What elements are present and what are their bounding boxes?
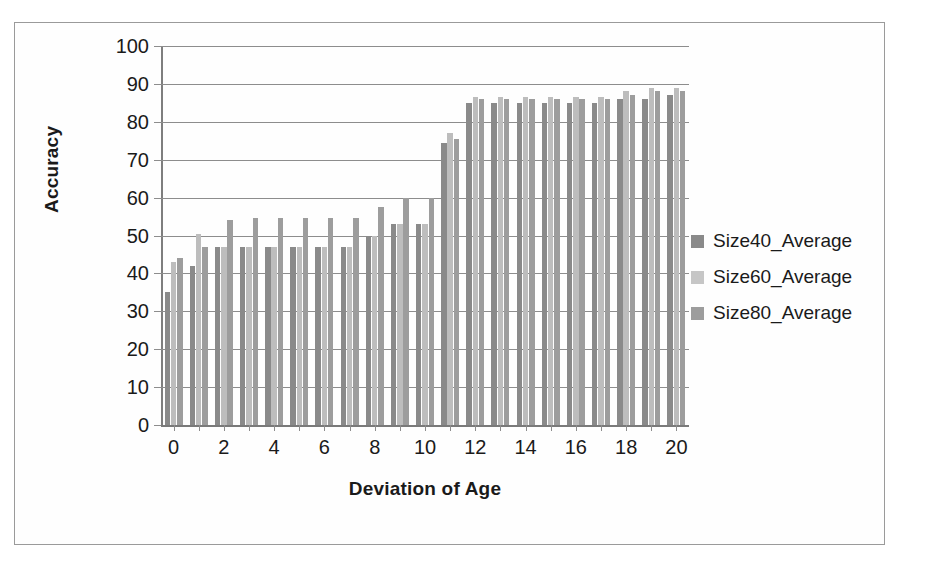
y-tick-label-10: 10: [127, 377, 149, 397]
bar-Size80_Average-7[interactable]: [353, 218, 358, 425]
bar-Size60_Average-18[interactable]: [623, 91, 628, 425]
bar-Size60_Average-5[interactable]: [297, 247, 302, 425]
x-tick-14: [526, 425, 527, 431]
bar-Size80_Average-20[interactable]: [680, 91, 685, 425]
bar-Size80_Average-15[interactable]: [554, 99, 559, 425]
legend-item-Size40_Average[interactable]: Size40_Average: [691, 223, 852, 259]
bar-Size40_Average-17[interactable]: [592, 103, 597, 425]
x-tick-label-20: 20: [665, 437, 687, 457]
legend-label: Size40_Average: [713, 230, 852, 252]
bar-Size80_Average-8[interactable]: [378, 207, 383, 425]
bar-group-20: [667, 46, 685, 425]
x-tick-label-14: 14: [514, 437, 536, 457]
bar-Size60_Average-19[interactable]: [649, 88, 654, 425]
bar-Size80_Average-13[interactable]: [504, 99, 509, 425]
bar-Size60_Average-10[interactable]: [422, 224, 427, 425]
x-tick-18: [626, 425, 627, 431]
bar-Size40_Average-14[interactable]: [517, 103, 522, 425]
x-tick-label-6: 6: [319, 437, 330, 457]
bar-Size40_Average-16[interactable]: [567, 103, 572, 425]
bar-group-2: [215, 46, 233, 425]
figure-frame: 0102030405060708090100 02468101214161820…: [14, 22, 885, 545]
bar-Size40_Average-4[interactable]: [265, 247, 270, 425]
bar-Size40_Average-18[interactable]: [617, 99, 622, 425]
x-tick-2: [224, 425, 225, 431]
bar-Size60_Average-4[interactable]: [271, 247, 276, 425]
bar-Size40_Average-12[interactable]: [466, 103, 471, 425]
bar-Size80_Average-11[interactable]: [454, 139, 459, 425]
bar-Size40_Average-15[interactable]: [542, 103, 547, 425]
bar-Size60_Average-9[interactable]: [397, 224, 402, 425]
bar-Size60_Average-20[interactable]: [674, 88, 679, 425]
bar-group-9: [391, 46, 409, 425]
x-tick-10: [425, 425, 426, 431]
bar-Size40_Average-13[interactable]: [491, 103, 496, 425]
bar-Size80_Average-14[interactable]: [529, 99, 534, 425]
y-tick-label-80: 80: [127, 112, 149, 132]
bar-Size60_Average-0[interactable]: [171, 262, 176, 425]
bar-group-1: [190, 46, 208, 425]
y-tick-100: [154, 46, 161, 47]
bar-Size40_Average-2[interactable]: [215, 247, 220, 425]
bar-Size80_Average-5[interactable]: [303, 218, 308, 425]
x-tick-label-2: 2: [218, 437, 229, 457]
bar-Size80_Average-1[interactable]: [202, 247, 207, 425]
bar-Size40_Average-20[interactable]: [667, 95, 672, 425]
bar-Size60_Average-7[interactable]: [347, 247, 352, 425]
x-tick-7: [350, 425, 351, 431]
legend-item-Size80_Average[interactable]: Size80_Average: [691, 295, 852, 331]
bar-Size40_Average-6[interactable]: [315, 247, 320, 425]
bar-Size60_Average-12[interactable]: [473, 97, 478, 425]
x-tick-11: [450, 425, 451, 431]
bar-group-7: [341, 46, 359, 425]
bar-Size60_Average-1[interactable]: [196, 234, 201, 425]
legend-item-Size60_Average[interactable]: Size60_Average: [691, 259, 852, 295]
x-tick-3: [249, 425, 250, 431]
bar-Size80_Average-6[interactable]: [328, 218, 333, 425]
x-tick-label-16: 16: [565, 437, 587, 457]
x-tick-1: [199, 425, 200, 431]
y-tick-label-90: 90: [127, 74, 149, 94]
bar-Size60_Average-3[interactable]: [246, 247, 251, 425]
bar-Size40_Average-10[interactable]: [416, 224, 421, 425]
bar-Size80_Average-2[interactable]: [227, 220, 232, 425]
bar-Size80_Average-10[interactable]: [429, 198, 434, 425]
bar-Size40_Average-11[interactable]: [441, 143, 446, 425]
bar-Size60_Average-6[interactable]: [322, 247, 327, 425]
bar-Size40_Average-9[interactable]: [391, 224, 396, 425]
bar-Size80_Average-4[interactable]: [278, 218, 283, 425]
bar-Size60_Average-8[interactable]: [372, 236, 377, 426]
plot-area: 0102030405060708090100 02468101214161820: [161, 46, 689, 425]
bar-Size60_Average-11[interactable]: [447, 133, 452, 425]
bar-Size80_Average-9[interactable]: [403, 198, 408, 425]
bar-Size80_Average-3[interactable]: [253, 218, 258, 425]
x-tick-15: [551, 425, 552, 431]
bar-Size60_Average-15[interactable]: [548, 97, 553, 425]
bar-Size40_Average-7[interactable]: [341, 247, 346, 425]
bar-Size60_Average-17[interactable]: [598, 97, 603, 425]
bar-Size80_Average-12[interactable]: [479, 99, 484, 425]
bar-Size60_Average-16[interactable]: [573, 97, 578, 425]
bar-Size40_Average-0[interactable]: [165, 292, 170, 425]
bar-Size40_Average-1[interactable]: [190, 266, 195, 425]
y-tick-label-0: 0: [138, 415, 149, 435]
bar-Size40_Average-3[interactable]: [240, 247, 245, 425]
bar-Size80_Average-19[interactable]: [655, 91, 660, 425]
bar-Size80_Average-17[interactable]: [605, 99, 610, 425]
bar-Size40_Average-8[interactable]: [366, 236, 371, 426]
bar-Size80_Average-16[interactable]: [579, 99, 584, 425]
bar-group-0: [165, 46, 183, 425]
bar-Size40_Average-19[interactable]: [642, 99, 647, 425]
y-tick-70: [154, 160, 161, 161]
x-tick-4: [274, 425, 275, 431]
bar-group-19: [642, 46, 660, 425]
bar-group-16: [567, 46, 585, 425]
bar-Size60_Average-13[interactable]: [498, 97, 503, 425]
bar-Size60_Average-2[interactable]: [221, 247, 226, 425]
bar-Size80_Average-18[interactable]: [630, 95, 635, 425]
bar-group-6: [315, 46, 333, 425]
bar-Size40_Average-5[interactable]: [290, 247, 295, 425]
bar-Size60_Average-14[interactable]: [523, 97, 528, 425]
bar-Size80_Average-0[interactable]: [177, 258, 182, 425]
y-tick-80: [154, 122, 161, 123]
